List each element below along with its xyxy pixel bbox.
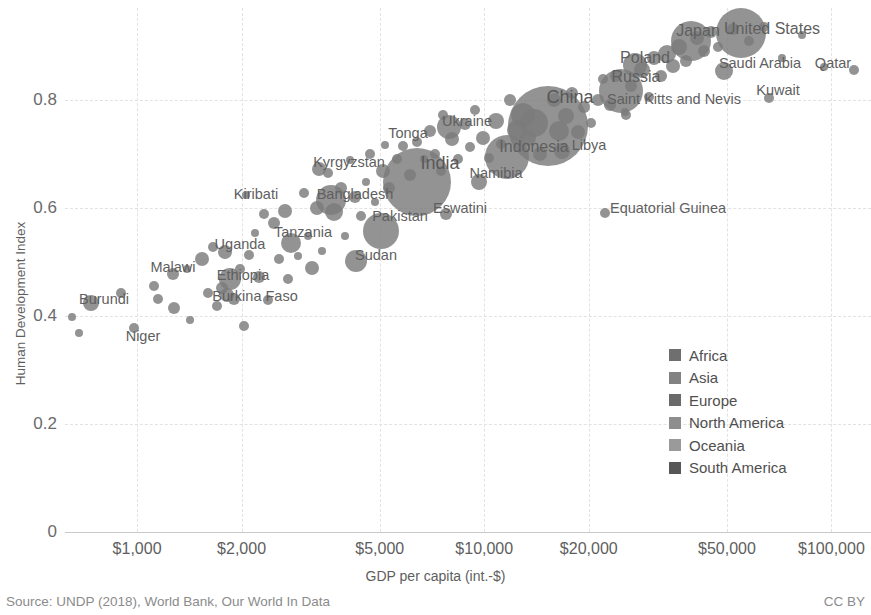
legend-item-asia[interactable]: Asia [669, 368, 787, 389]
data-point-label: Bangladesh [317, 186, 394, 202]
data-point-label: Pakistan [372, 208, 428, 224]
data-point-bubble[interactable] [465, 142, 475, 152]
data-point-bubble[interactable] [186, 316, 194, 324]
data-point-bubble[interactable] [305, 261, 319, 275]
data-point-bubble[interactable] [299, 188, 309, 198]
legend-swatch-icon [669, 462, 681, 474]
gridline-horizontal [65, 100, 871, 101]
data-point-label: Burundi [79, 291, 129, 307]
data-point-label: Russia [612, 68, 661, 86]
data-point-label: Saint Kitts and Nevis [607, 91, 741, 107]
continent-legend: AfricaAsiaEuropeNorth AmericaOceaniaSout… [669, 345, 787, 480]
y-axis-tick-label: 0.2 [33, 414, 57, 434]
data-point-label: Qatar [815, 55, 851, 71]
data-point-label: Equatorial Guinea [610, 200, 726, 216]
data-point-bubble[interactable] [283, 274, 293, 284]
gridline-vertical [380, 8, 381, 532]
data-point-label: Sudan [355, 247, 397, 263]
data-point-label: Tonga [388, 125, 428, 141]
legend-swatch-icon [669, 439, 681, 451]
data-point-label: China [546, 87, 593, 108]
data-point-label: Niger [126, 328, 161, 344]
data-point-label: Namibia [469, 165, 522, 181]
legend-item-oceania[interactable]: Oceania [669, 435, 787, 456]
legend-swatch-icon [669, 417, 681, 429]
data-point-label: India [420, 153, 459, 174]
x-axis-line [65, 532, 871, 533]
data-point-label: Indonesia [499, 138, 568, 156]
data-point-bubble[interactable] [153, 294, 163, 304]
x-axis-title: GDP per capita (int.-$) [0, 568, 871, 584]
data-point-bubble[interactable] [381, 141, 389, 149]
legend-item-label: Asia [689, 370, 718, 385]
legend-item-europe[interactable]: Europe [669, 390, 787, 411]
y-axis-tick-label: 0.8 [33, 90, 57, 110]
chart-footer: Source: UNDP (2018), World Bank, Our Wor… [6, 594, 865, 609]
legend-swatch-icon [669, 372, 681, 384]
data-point-bubble[interactable] [278, 204, 292, 218]
data-point-bubble[interactable] [68, 313, 76, 321]
data-point-label: Malawi [150, 259, 195, 275]
legend-item-africa[interactable]: Africa [669, 345, 787, 366]
x-axis-tick-label: $100,000 [798, 540, 865, 558]
data-point-bubble[interactable] [318, 247, 326, 255]
legend-item-label: South America [689, 460, 787, 475]
x-axis-tick-label: $20,000 [560, 540, 618, 558]
data-point-bubble[interactable] [168, 302, 180, 314]
x-axis-tick-label: $50,000 [698, 540, 756, 558]
data-point-bubble[interactable] [621, 108, 629, 116]
legend-swatch-icon [669, 394, 681, 406]
data-point-label: Burkina Faso [212, 288, 297, 304]
x-axis-tick-label: $10,000 [455, 540, 513, 558]
data-point-bubble[interactable] [239, 321, 249, 331]
data-point-bubble[interactable] [341, 232, 349, 240]
source-note: Source: UNDP (2018), World Bank, Our Wor… [6, 594, 330, 609]
data-point-bubble[interactable] [356, 211, 366, 221]
data-point-bubble[interactable] [274, 254, 284, 264]
legend-item-label: Europe [689, 393, 737, 408]
legend-item-label: Africa [689, 348, 727, 363]
x-axis-tick-label: $2,000 [217, 540, 266, 558]
data-point-bubble[interactable] [195, 252, 209, 266]
data-point-bubble[interactable] [600, 208, 610, 218]
data-point-label: Japan [676, 22, 720, 40]
data-point-label: Kiribati [234, 186, 278, 202]
data-point-bubble[interactable] [476, 131, 490, 145]
data-point-label: Tanzania [274, 224, 332, 240]
hdi-gdp-scatter-chart: 00.20.40.60.8 BurundiNigerMalawiUgandaEt… [0, 0, 871, 615]
y-axis-tick-label: 0.4 [33, 306, 57, 326]
y-axis-tick-label: 0 [48, 522, 57, 542]
legend-item-north-america[interactable]: North America [669, 413, 787, 434]
data-point-bubble[interactable] [294, 252, 302, 260]
license-note: CC BY [824, 594, 865, 609]
data-point-label: United States [724, 20, 820, 38]
data-point-label: Libya [572, 137, 607, 153]
data-point-label: Ukraine [442, 113, 492, 129]
data-point-bubble[interactable] [75, 329, 83, 337]
data-point-label: Uganda [215, 236, 266, 252]
gridline-vertical [137, 8, 138, 532]
legend-swatch-icon [669, 349, 681, 361]
data-point-bubble[interactable] [362, 178, 370, 186]
gridline-vertical [831, 8, 832, 532]
y-axis-tick-labels: 00.20.40.60.8 [0, 0, 65, 615]
data-point-label: Saudi Arabia [719, 55, 801, 71]
x-axis-tick-label: $1,000 [113, 540, 162, 558]
y-axis-title: Human Development Index [13, 144, 28, 464]
legend-item-label: Oceania [689, 438, 745, 453]
data-point-label: Ethiopia [217, 267, 269, 283]
y-axis-tick-label: 0.6 [33, 198, 57, 218]
legend-item-label: North America [689, 415, 784, 430]
x-axis-tick-label: $5,000 [355, 540, 404, 558]
data-point-label: Kyrgyzstan [313, 154, 385, 170]
data-point-label: Kuwait [756, 82, 800, 98]
data-point-bubble[interactable] [149, 281, 159, 291]
gridline-vertical [484, 8, 485, 532]
data-point-label: Eswatini [433, 200, 487, 216]
data-point-label: Poland [620, 49, 670, 67]
legend-item-south-america[interactable]: South America [669, 458, 787, 479]
data-point-bubble[interactable] [259, 209, 269, 219]
